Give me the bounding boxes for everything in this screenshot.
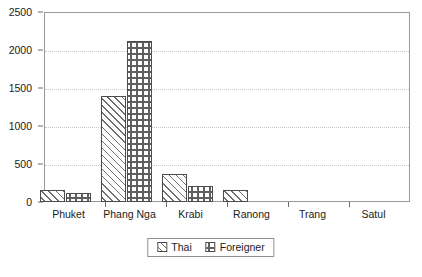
x-tick-label: Phuket — [52, 207, 85, 221]
y-tick-label: 500 — [14, 159, 32, 170]
x-tick-label: Ranong — [233, 207, 270, 221]
y-tick-mark — [38, 202, 43, 203]
y-tick-label: 0 — [26, 197, 32, 208]
y-tick-label: 1500 — [9, 83, 32, 94]
legend-swatch-diagonal-hatch-icon — [157, 242, 167, 252]
legend-label: Foreigner — [220, 242, 265, 253]
bar-chart: 25002000150010005000 PhuketPhang NgaKrab… — [0, 0, 422, 277]
legend: ThaiForeigner — [147, 238, 274, 257]
y-tick-mark — [38, 12, 43, 13]
legend-item: Foreigner — [206, 242, 265, 253]
x-tick-label: Krabi — [178, 207, 203, 221]
plot-area — [44, 12, 410, 202]
y-tick-label: 2500 — [9, 7, 32, 18]
x-tick-label: Phang Nga — [103, 207, 156, 221]
gridline — [45, 165, 409, 166]
gridline — [45, 127, 409, 128]
legend-swatch-dotted-grid-icon — [206, 242, 216, 252]
x-tick-label: Satul — [362, 207, 386, 221]
x-axis: PhuketPhang NgaKrabiRanongTrangSatul — [44, 207, 410, 223]
y-tick-mark — [38, 88, 43, 89]
y-tick-mark — [38, 164, 43, 165]
y-tick-label: 1000 — [9, 121, 32, 132]
y-tick-label: 2000 — [9, 45, 32, 56]
gridline — [45, 89, 409, 90]
gridline — [45, 51, 409, 52]
x-tick-label: Trang — [299, 207, 326, 221]
y-tick-mark — [38, 50, 43, 51]
legend-label: Thai — [171, 242, 191, 253]
y-tick-mark — [38, 126, 43, 127]
gridlines — [45, 13, 409, 201]
legend-item: Thai — [157, 242, 191, 253]
y-axis: 25002000150010005000 — [0, 12, 38, 202]
